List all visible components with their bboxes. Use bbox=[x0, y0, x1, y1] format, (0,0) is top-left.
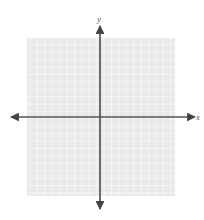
y-axis-label: y bbox=[96, 15, 101, 24]
x-axis-label: x bbox=[195, 113, 200, 122]
coordinate-plane-figure: y x bbox=[0, 0, 204, 220]
coordinate-plane-canvas: y x bbox=[0, 0, 204, 220]
